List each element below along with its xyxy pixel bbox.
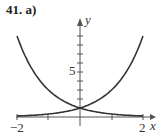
- x-tick-max: 2: [139, 120, 146, 136]
- x-tick-min: −2: [10, 120, 24, 136]
- y-tick-label: 5: [69, 63, 76, 79]
- plot-area: [0, 0, 167, 140]
- y-axis-label: y: [85, 12, 91, 28]
- chart: 41. a) y x 5 −2 2: [0, 0, 167, 140]
- y-axis-arrow-icon: [77, 18, 83, 26]
- x-axis-label: x: [150, 118, 156, 134]
